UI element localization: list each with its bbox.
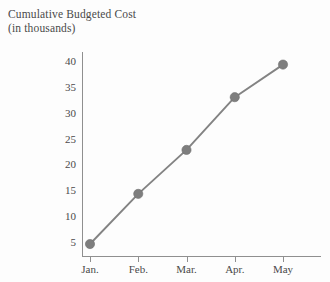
x-axis-tick-label: May: [261, 263, 305, 275]
data-point-marker: [278, 60, 287, 69]
x-axis-tick-label: Feb.: [116, 263, 160, 275]
data-point-marker: [182, 145, 191, 154]
data-point-marker: [230, 93, 239, 102]
y-axis-tick-label: 15: [54, 184, 76, 196]
y-axis-tick-label: 20: [54, 158, 76, 170]
y-axis-tick-label: 5: [54, 236, 76, 248]
series-markers: [85, 60, 287, 249]
x-axis-tick-label: Jan.: [68, 263, 112, 275]
y-axis-tick-label: 40: [54, 55, 76, 67]
data-point-marker: [134, 189, 143, 198]
y-axis-tick-label: 35: [54, 81, 76, 93]
y-axis-tick-label: 10: [54, 210, 76, 222]
y-axis-tick-label: 25: [54, 133, 76, 145]
y-axis-tick-label: 30: [54, 107, 76, 119]
x-axis-tick-label: Mar.: [165, 263, 209, 275]
data-point-marker: [85, 239, 94, 248]
x-axis-ticks: [91, 257, 284, 262]
chart-container: Cumulative Budgeted Cost (in thousands) …: [0, 0, 330, 282]
plot-area: [0, 0, 330, 282]
x-axis-tick-label: Apr.: [213, 263, 257, 275]
